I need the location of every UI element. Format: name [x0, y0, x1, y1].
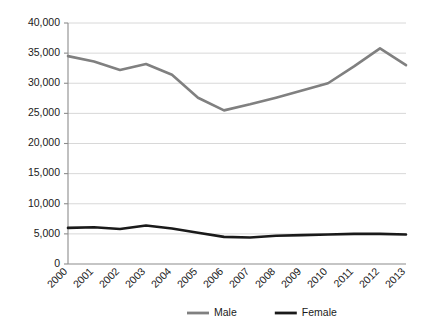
series-line-male: [68, 48, 406, 110]
x-axis-tick-label: 2004: [148, 265, 173, 290]
line-chart: 05,00010,00015,00020,00025,00030,00035,0…: [0, 0, 430, 335]
x-axis-tick-label: 2007: [226, 265, 251, 290]
x-axis-tick-labels: 2000200120022003200420052006200720082009…: [44, 265, 407, 290]
series-lines-group: [68, 48, 406, 237]
y-axis-tick-label: 10,000: [28, 197, 60, 209]
x-axis-tick-label: 2013: [382, 265, 407, 290]
y-axis-tick-label: 40,000: [28, 16, 60, 28]
x-axis-tick-label: 2006: [200, 265, 225, 290]
chart-canvas: 05,00010,00015,00020,00025,00030,00035,0…: [0, 0, 430, 335]
y-axis-tick-label: 20,000: [28, 136, 60, 148]
y-axis-tick-labels: 05,00010,00015,00020,00025,00030,00035,0…: [28, 16, 60, 269]
y-axis-tick-label: 15,000: [28, 166, 60, 178]
x-axis-tick-label: 2010: [304, 265, 329, 290]
x-axis-tick-label: 2012: [356, 265, 381, 290]
y-axis-tick-label: 35,000: [28, 46, 60, 58]
y-axis-tick-label: 30,000: [28, 76, 60, 88]
y-axis-tick-label: 25,000: [28, 106, 60, 118]
gridlines-group: [68, 23, 406, 234]
x-axis-tick-label: 2003: [122, 265, 147, 290]
x-axis-tick-label: 2008: [252, 265, 277, 290]
x-axis-tick-label: 2009: [278, 265, 303, 290]
x-axis-tick-label: 2011: [331, 265, 356, 290]
legend-label-female: Female: [302, 306, 337, 318]
y-axis-tick-label: 5,000: [34, 227, 60, 239]
chart-legend: MaleFemale: [187, 306, 337, 318]
x-axis-tick-label: 2001: [70, 265, 95, 290]
series-line-female: [68, 225, 406, 237]
x-axis-tick-label: 2000: [44, 265, 69, 290]
x-axis-tick-label: 2005: [174, 265, 199, 290]
legend-label-male: Male: [214, 306, 237, 318]
x-axis-tick-label: 2002: [96, 265, 121, 290]
